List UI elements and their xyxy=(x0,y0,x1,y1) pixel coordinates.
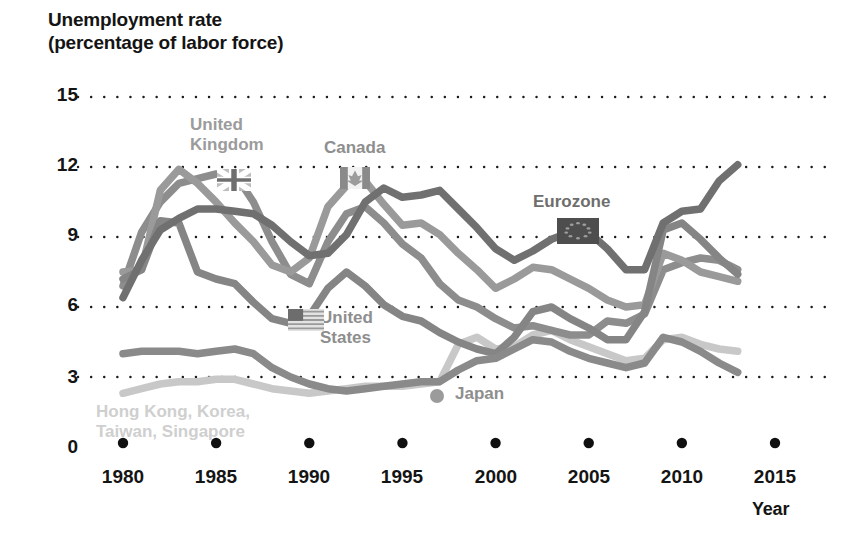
us-flag-icon xyxy=(288,309,324,331)
x-tick-dot-2015 xyxy=(770,438,780,448)
plot-area xyxy=(0,0,842,540)
gridlines xyxy=(78,97,830,377)
canada-flag-icon xyxy=(340,167,370,189)
chart-figure: Unemployment rate(percentage of labor fo… xyxy=(0,0,842,540)
x-tick-dot-2010 xyxy=(677,438,687,448)
japan-dot-icon xyxy=(430,389,444,403)
x-tick-dot-2000 xyxy=(490,438,500,448)
series-lines xyxy=(123,165,738,394)
x-tick-dot-1990 xyxy=(304,438,314,448)
series-line-united-states xyxy=(123,221,738,354)
x-axis-tick-dots xyxy=(118,438,780,448)
eu-flag-icon xyxy=(557,218,599,244)
x-tick-dot-2005 xyxy=(584,438,594,448)
x-tick-dot-1980 xyxy=(118,438,128,448)
uk-flag-icon xyxy=(217,169,251,191)
x-tick-dot-1985 xyxy=(211,438,221,448)
x-tick-dot-1995 xyxy=(397,438,407,448)
